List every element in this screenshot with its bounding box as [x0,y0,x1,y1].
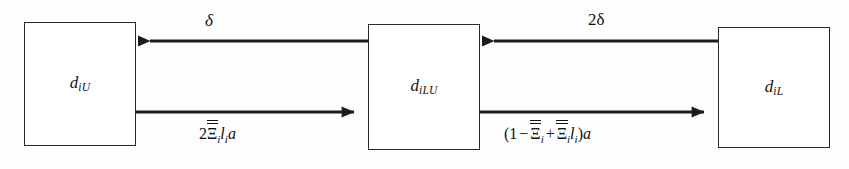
node-subscript-diLU: iLU [419,84,438,96]
node-subscript-diU: iU [78,81,90,93]
variable-a: a [228,125,236,142]
edge-label-2xi-l-a: 2Ξilia [199,126,236,145]
edge-label-one-minus-xi: (1−Ξi+Ξili)a [504,126,591,145]
edge-label-delta: δ [205,12,213,29]
node-base-diLU: d [411,76,420,95]
flow-diagram: diU diLU diL δ 2δ 2Ξilia (1−Ξi+Ξili)a [0,0,849,169]
variable-a-right: a [583,125,591,142]
edge-label-2delta: 2δ [588,11,605,28]
node-box-diU: diU [24,22,136,146]
coefficient-2: 2 [199,125,207,142]
xi-double-bar-icon-1: Ξ [530,126,540,142]
minus-operator: − [517,125,530,142]
node-label-diU: diU [70,74,90,94]
node-subscript-diL: iL [773,85,783,97]
xi-double-bar-icon: Ξ [207,126,217,142]
plus-operator: + [544,125,557,142]
node-box-diL: diL [718,27,830,148]
node-base-diL: d [765,77,774,96]
xi-double-bar-icon-2: Ξ [557,126,567,142]
node-label-diLU: diLU [411,77,438,97]
node-label-diL: diL [765,78,784,98]
node-box-diLU: diLU [368,24,480,150]
paren-open-one: (1 [504,125,517,142]
